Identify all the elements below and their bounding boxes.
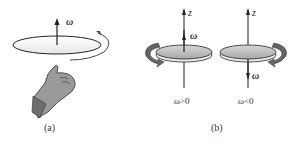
caption-a: (a) (44, 122, 55, 133)
omega-label-a: ω (66, 16, 73, 27)
panel-b-left (146, 8, 213, 88)
caption-b: (b) (211, 122, 223, 133)
disk-right (220, 45, 276, 59)
z-label-right: z (252, 7, 256, 18)
omega-arrowhead-a (55, 18, 60, 25)
omega-label-left: ω (190, 30, 197, 41)
condition-right: ω<0 (238, 96, 254, 106)
omega-label-right: ω (252, 70, 259, 81)
z-arrowhead-left (182, 8, 186, 15)
omega-arrowhead-right (246, 73, 250, 80)
z-arrowhead-right (246, 8, 250, 15)
right-hand-icon (32, 65, 75, 118)
condition-left: ω>0 (174, 96, 190, 106)
z-label-left: z (188, 7, 192, 18)
panel-a (13, 18, 109, 118)
